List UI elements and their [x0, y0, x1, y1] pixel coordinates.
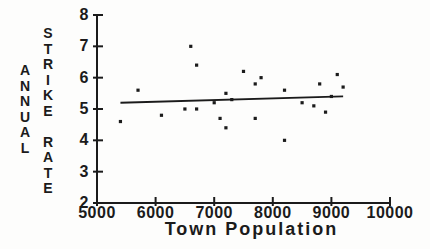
y-axis-label-annual-letter: A	[20, 62, 30, 78]
data-point	[224, 92, 227, 95]
y-axis-label-strike-rate-letter: R	[43, 56, 53, 72]
data-point	[195, 64, 198, 67]
data-point	[224, 126, 227, 129]
data-point	[330, 95, 333, 98]
scatter-figure: 50006000700080009000100002345678ANNUALST…	[0, 0, 430, 249]
y-tick-label: 3	[80, 163, 89, 180]
data-point	[283, 89, 286, 92]
y-axis-label-strike-rate-letter: T	[44, 165, 53, 181]
data-point	[336, 73, 339, 76]
y-axis-label-strike-rate-letter: I	[46, 72, 50, 88]
data-point	[189, 45, 192, 48]
y-tick-label: 6	[80, 69, 89, 86]
y-tick-label: 5	[80, 100, 89, 117]
data-point	[218, 117, 221, 120]
data-point	[195, 107, 198, 110]
y-axis-label-strike-rate-letter: E	[43, 103, 52, 119]
y-tick-label: 8	[80, 6, 89, 23]
data-point	[254, 82, 257, 85]
data-point	[242, 70, 245, 73]
scatter-plot: 50006000700080009000100002345678ANNUALST…	[0, 0, 430, 249]
y-axis-label-annual-letter: U	[20, 109, 30, 125]
y-tick-label: 2	[80, 194, 89, 211]
data-point	[183, 107, 186, 110]
y-axis-label-strike-rate-letter: E	[43, 180, 52, 196]
y-axis-label-annual-letter: N	[20, 93, 30, 109]
y-tick-label: 4	[80, 131, 89, 148]
data-point	[283, 139, 286, 142]
y-axis-label-annual-letter: N	[20, 78, 30, 94]
y-axis-label-strike-rate-letter: R	[43, 134, 53, 150]
data-point	[259, 76, 262, 79]
data-point	[318, 82, 321, 85]
data-point	[136, 89, 139, 92]
y-axis-label-strike-rate-letter: K	[43, 87, 53, 103]
data-point	[119, 120, 122, 123]
data-point	[160, 114, 163, 117]
y-axis-label-annual-letter: L	[21, 140, 30, 156]
y-tick-label: 7	[80, 37, 89, 54]
y-axis-label-strike-rate-letter: A	[43, 149, 53, 165]
data-point	[324, 111, 327, 114]
data-point	[312, 104, 315, 107]
data-point	[213, 101, 216, 104]
data-point	[254, 117, 257, 120]
y-axis-label-strike-rate-letter: S	[43, 25, 52, 41]
data-point	[230, 98, 233, 101]
x-axis-label: Town Population	[105, 219, 398, 240]
y-axis-label-annual-letter: A	[20, 124, 30, 140]
data-point	[342, 85, 345, 88]
data-point	[301, 101, 304, 104]
y-axis-label-strike-rate-letter: T	[44, 41, 53, 57]
